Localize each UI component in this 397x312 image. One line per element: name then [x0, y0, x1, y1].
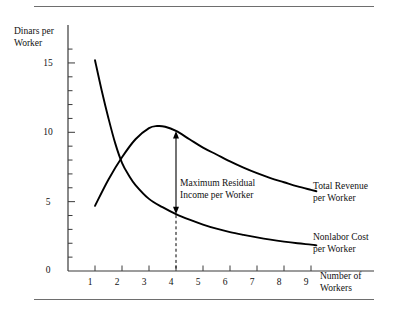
plot-canvas — [0, 0, 397, 312]
maximum-residual-income-arrow — [173, 131, 179, 271]
x-axis-ticks — [95, 266, 311, 272]
curve-total-revenue-per-worker — [95, 126, 316, 206]
figure-container: Dinars perWorker 15 10 5 0 1 2 3 4 5 6 7… — [0, 0, 397, 312]
curve-nonlabor-cost-per-worker — [95, 60, 316, 245]
y-axis-ticks — [68, 49, 75, 257]
axes-group — [68, 25, 374, 271]
